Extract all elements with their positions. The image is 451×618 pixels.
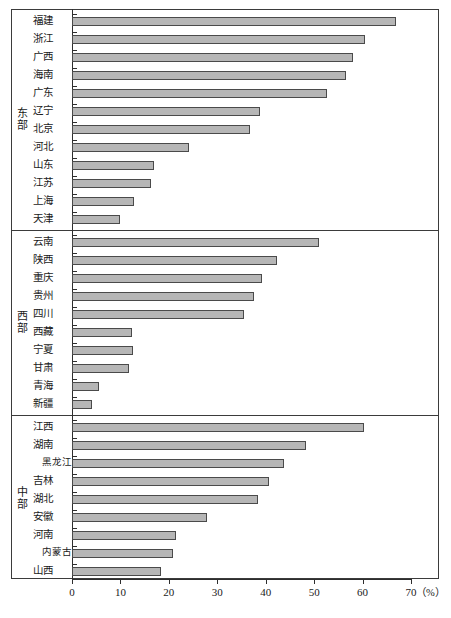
value-tick-label: 20 — [149, 586, 189, 599]
value-tick — [314, 579, 315, 584]
bar — [72, 179, 151, 188]
category-tick — [72, 235, 77, 236]
category-tick — [72, 253, 77, 254]
category-tick — [72, 343, 77, 344]
category-tick — [72, 104, 77, 105]
category-tick — [72, 379, 77, 380]
bar — [72, 310, 244, 319]
category-label: 西藏 — [33, 325, 72, 338]
bar — [72, 459, 284, 468]
category-label: 黑龙江 — [33, 456, 72, 469]
category-label: 湖北 — [33, 492, 72, 505]
category-label: 陕西 — [33, 253, 72, 266]
bar — [72, 256, 277, 265]
category-label: 山东 — [33, 158, 72, 171]
value-tick — [266, 579, 267, 584]
category-label: 广东 — [33, 86, 72, 99]
bar — [72, 549, 173, 558]
value-tick-label: 60 — [343, 586, 383, 599]
category-tick — [72, 158, 77, 159]
bar — [72, 161, 154, 170]
value-tick — [120, 579, 121, 584]
bar — [72, 328, 132, 337]
category-label: 四川 — [33, 307, 72, 320]
region-group-label: 西部 — [15, 310, 29, 334]
bar — [72, 531, 176, 540]
category-label: 吉林 — [33, 474, 72, 487]
category-tick — [72, 68, 77, 69]
category-label: 江苏 — [33, 176, 72, 189]
region-separator — [11, 230, 439, 231]
bar — [72, 364, 129, 373]
value-tick — [411, 579, 412, 584]
category-tick — [72, 528, 77, 529]
bar — [72, 53, 353, 62]
value-tick-label: 0 — [52, 586, 92, 599]
bar — [72, 567, 161, 576]
category-label: 海南 — [33, 68, 72, 81]
category-tick — [72, 438, 77, 439]
region-group-0: 东部 — [11, 11, 33, 228]
bar — [72, 125, 250, 134]
category-label: 天津 — [33, 212, 72, 225]
category-tick — [72, 361, 77, 362]
category-label: 内蒙古 — [33, 546, 72, 559]
region-group-2: 中部 — [11, 417, 33, 579]
value-tick — [72, 579, 73, 584]
bar — [72, 423, 364, 432]
category-tick — [72, 289, 77, 290]
category-tick — [72, 564, 77, 565]
category-label: 江西 — [33, 420, 72, 433]
bar — [72, 346, 133, 355]
category-tick — [72, 307, 77, 308]
value-tick — [217, 579, 218, 584]
bar — [72, 477, 269, 486]
category-label: 广西 — [33, 50, 72, 63]
category-label: 新疆 — [33, 397, 72, 410]
category-label: 安徽 — [33, 510, 72, 523]
category-label: 河北 — [33, 140, 72, 153]
bar — [72, 382, 99, 391]
bar — [72, 215, 120, 224]
value-tick — [169, 579, 170, 584]
value-axis-line — [72, 579, 411, 580]
bar — [72, 17, 396, 26]
category-tick — [72, 546, 77, 547]
category-label: 福建 — [33, 14, 72, 27]
category-label: 浙江 — [33, 32, 72, 45]
category-label: 云南 — [33, 235, 72, 248]
bar — [72, 197, 134, 206]
bar — [72, 441, 306, 450]
bar — [72, 89, 327, 98]
bar — [72, 238, 319, 247]
category-label: 宁夏 — [33, 343, 72, 356]
category-tick — [72, 510, 77, 511]
region-group-1: 西部 — [11, 232, 33, 413]
category-label: 辽宁 — [33, 104, 72, 117]
category-tick — [72, 397, 77, 398]
category-label: 北京 — [33, 122, 72, 135]
category-tick — [72, 420, 77, 421]
category-label: 重庆 — [33, 271, 72, 284]
value-tick-label: 10 — [100, 586, 140, 599]
category-tick — [72, 32, 77, 33]
category-label: 山西 — [33, 564, 72, 577]
region-group-label: 东部 — [15, 107, 29, 131]
category-tick — [72, 194, 77, 195]
bar — [72, 495, 258, 504]
bar — [72, 292, 254, 301]
bar — [72, 107, 260, 116]
bar — [72, 513, 207, 522]
category-label: 上海 — [33, 194, 72, 207]
category-tick — [72, 122, 77, 123]
region-separator — [11, 415, 439, 416]
value-tick-label: 50 — [294, 586, 334, 599]
category-tick — [72, 325, 77, 326]
category-label: 贵州 — [33, 289, 72, 302]
category-label: 河南 — [33, 528, 72, 541]
value-tick — [363, 579, 364, 584]
category-tick — [72, 176, 77, 177]
value-tick-label: 40 — [246, 586, 286, 599]
category-tick — [72, 271, 77, 272]
bar — [72, 71, 346, 80]
